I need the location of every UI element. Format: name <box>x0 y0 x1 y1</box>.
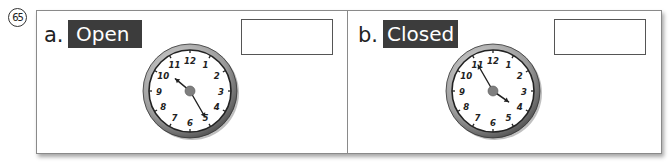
svg-text:4: 4 <box>517 101 523 112</box>
svg-text:1: 1 <box>203 59 209 70</box>
answer-input[interactable] <box>241 19 333 55</box>
clock: 121234567891011 <box>140 41 240 141</box>
clock-icon: 121234567891011 <box>140 41 240 141</box>
svg-text:7: 7 <box>172 112 178 123</box>
svg-text:4: 4 <box>214 101 220 112</box>
panel-a: a. Open 121234567891011 <box>37 11 347 153</box>
sign-label: Open <box>68 20 142 48</box>
exercise-box: a. Open 121234567891011 b. Closed 121234… <box>36 10 662 154</box>
svg-text:3: 3 <box>218 86 224 97</box>
svg-text:8: 8 <box>463 101 469 112</box>
svg-text:1: 1 <box>506 59 512 70</box>
svg-text:9: 9 <box>156 86 162 97</box>
clock-icon: 121234567891011 <box>443 41 543 141</box>
svg-text:2: 2 <box>214 70 220 81</box>
answer-input[interactable] <box>554 19 646 55</box>
svg-text:6: 6 <box>490 117 496 128</box>
svg-text:3: 3 <box>521 86 527 97</box>
item-letter: a. <box>44 23 64 47</box>
svg-text:11: 11 <box>169 59 181 70</box>
question-number: 65 <box>8 8 27 27</box>
item-letter: b. <box>358 23 378 47</box>
clock: 121234567891011 <box>443 41 543 141</box>
svg-text:12: 12 <box>487 55 499 66</box>
panel-b: b. Closed 121234567891011 <box>347 11 662 153</box>
svg-text:2: 2 <box>517 70 523 81</box>
svg-text:8: 8 <box>160 101 166 112</box>
svg-text:10: 10 <box>460 70 472 81</box>
svg-text:6: 6 <box>187 117 193 128</box>
svg-text:9: 9 <box>459 86 465 97</box>
svg-text:12: 12 <box>184 55 196 66</box>
svg-text:11: 11 <box>472 59 484 70</box>
svg-text:7: 7 <box>475 112 481 123</box>
svg-text:5: 5 <box>506 112 512 123</box>
svg-text:10: 10 <box>157 70 169 81</box>
